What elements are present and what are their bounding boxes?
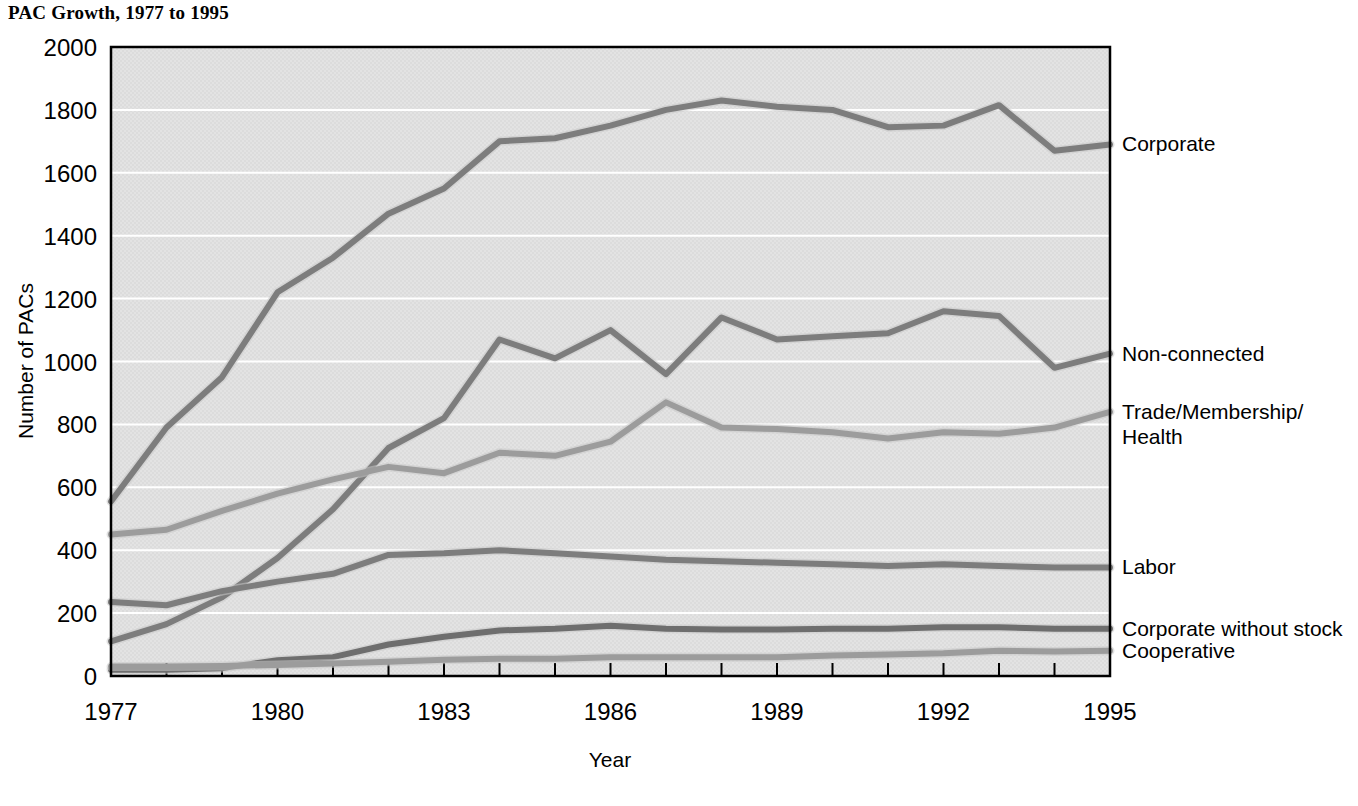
line-chart: 0200400600800100012001400160018002000 19… [0,0,1358,790]
y-tick-label: 400 [57,537,97,564]
y-tick-label: 1200 [44,286,97,313]
y-tick-label: 1600 [44,160,97,187]
y-tick-label: 1400 [44,223,97,250]
series-label-corporate_without_stock: Corporate without stock [1122,617,1343,640]
y-tick-label: 200 [57,600,97,627]
series-labels-group: CorporateNon-connectedTrade/Membership/H… [1122,132,1343,661]
x-tick-label: 1977 [84,698,137,725]
x-axis-title: Year [589,748,631,771]
series-label-non_connected: Non-connected [1122,342,1264,365]
x-tick-label: 1986 [584,698,637,725]
y-tick-label: 600 [57,474,97,501]
y-axis-title: Number of PACs [14,283,37,439]
y-tick-label: 1800 [44,97,97,124]
series-label-cooperative: Cooperative [1122,639,1235,662]
y-tick-label: 1000 [44,349,97,376]
y-tick-label: 2000 [44,34,97,61]
figure-caption [150,790,1250,806]
x-tick-label: 1989 [750,698,803,725]
pac-growth-figure: PAC Growth, 1977 to 1995 020040060080010… [0,0,1358,806]
x-tick-label: 1995 [1083,698,1136,725]
y-axis-ticks: 0200400600800100012001400160018002000 [44,34,97,690]
x-tick-label: 1980 [251,698,304,725]
y-tick-label: 0 [84,663,97,690]
x-tick-label: 1992 [917,698,970,725]
series-label-corporate: Corporate [1122,132,1215,155]
y-tick-label: 800 [57,411,97,438]
series-label-trade: Health [1122,425,1183,448]
x-tick-label: 1983 [417,698,470,725]
series-label-labor: Labor [1122,555,1176,578]
series-label-trade: Trade/Membership/ [1122,400,1303,423]
